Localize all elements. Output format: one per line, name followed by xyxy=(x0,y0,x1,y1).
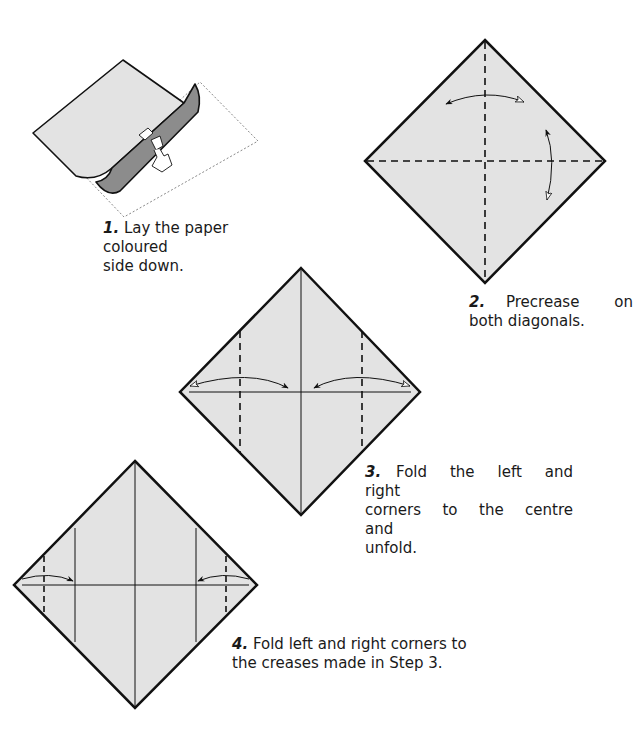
step4-caption: 4. Fold left and right corners to the cr… xyxy=(232,635,492,673)
step3-caption: 3. Fold the left and right corners to th… xyxy=(365,463,573,558)
step-number: 2. xyxy=(469,293,485,311)
step-number: 1. xyxy=(103,219,119,237)
caption-line: Fold the left and right xyxy=(365,463,573,500)
step-number: 3. xyxy=(365,463,381,481)
caption-line: both diagonals. xyxy=(469,312,633,331)
step4-diagram xyxy=(14,461,257,708)
caption-line: Precrease on xyxy=(506,293,633,311)
caption-line: Lay the paper coloured xyxy=(103,219,228,256)
step2-diagram xyxy=(365,40,605,283)
caption-line: Fold left and right corners to xyxy=(253,635,467,653)
step1-caption: 1. Lay the paper coloured side down. xyxy=(103,219,233,276)
step1-diagram xyxy=(33,35,258,217)
step-number: 4. xyxy=(232,635,248,653)
caption-line: side down. xyxy=(103,257,233,276)
caption-line: the creases made in Step 3. xyxy=(232,654,492,673)
caption-line: unfold. xyxy=(365,539,573,558)
caption-line: corners to the centre and xyxy=(365,501,573,539)
step2-caption: 2. Precrease on both diagonals. xyxy=(469,293,633,331)
